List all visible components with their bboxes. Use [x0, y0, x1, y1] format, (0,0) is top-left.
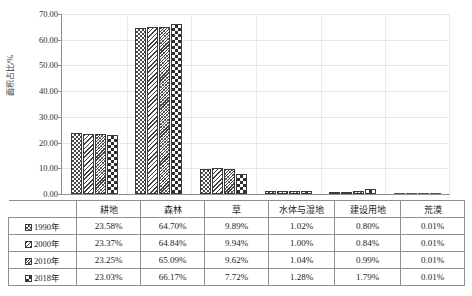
table-cell-value: 9.89%	[205, 218, 269, 235]
table-cell-value: 0.01%	[401, 235, 465, 252]
legend-row-label: 1990年	[9, 218, 77, 235]
legend-row-label: 2000年	[9, 235, 77, 252]
bar-group	[321, 14, 386, 194]
bar	[224, 169, 235, 194]
legend-swatch-icon	[25, 241, 32, 248]
y-tick-label: 70.00	[16, 10, 58, 18]
table-cell-value: 0.84%	[335, 235, 401, 252]
data-table-legend: 耕地森林草水体与湿地建设用地荒漠1990年23.58%64.70%9.89%1.…	[8, 200, 464, 286]
table-cell-value: 23.58%	[77, 218, 141, 235]
bar	[394, 193, 405, 194]
legend-series-name: 1990年	[34, 222, 60, 232]
top-cropped-text	[0, 0, 472, 7]
bar	[212, 168, 223, 194]
y-tick-mark	[58, 40, 62, 41]
y-tick-label: 40.00	[16, 87, 58, 95]
table-column-header: 草	[205, 201, 269, 218]
x-axis-line	[61, 194, 450, 195]
table-column-header: 森林	[141, 201, 205, 218]
table-cell-value: 1.04%	[269, 252, 335, 269]
bar	[365, 189, 376, 194]
table-cell-value: 64.70%	[141, 218, 205, 235]
table-cell-value: 9.62%	[205, 252, 269, 269]
table-cell-value: 0.01%	[401, 218, 465, 235]
y-tick-mark	[58, 143, 62, 144]
y-tick-label: 60.00	[16, 36, 58, 44]
bar	[430, 193, 441, 194]
bar-group	[256, 14, 321, 194]
table-cell-value: 1.00%	[269, 235, 335, 252]
legend-series-name: 2018年	[34, 273, 60, 283]
bar	[418, 193, 429, 194]
table-cell-value: 23.37%	[77, 235, 141, 252]
bar-group	[191, 14, 256, 194]
y-axis-tick-labels: 0.0010.0020.0030.0040.0050.0060.0070.00	[0, 8, 58, 200]
table-cell-value: 64.84%	[141, 235, 205, 252]
bar	[135, 28, 146, 194]
bar	[83, 134, 94, 194]
y-tick-mark	[58, 117, 62, 118]
legend-row-label: 2010年	[9, 252, 77, 269]
plot-area: 面积占比/% 0.0010.0020.0030.0040.0050.0060.0…	[0, 8, 472, 200]
table-cell-value: 0.80%	[335, 218, 401, 235]
y-tick-mark	[58, 168, 62, 169]
table-cell-value: 23.25%	[77, 252, 141, 269]
table-row: 2010年23.25%65.09%9.62%1.04%0.99%0.01%	[9, 252, 465, 269]
figure-caption	[0, 283, 472, 296]
legend-series-name: 2010年	[34, 256, 60, 266]
table-column-header: 水体与湿地	[269, 201, 335, 218]
bar	[341, 192, 352, 194]
y-tick-mark	[58, 14, 62, 15]
bar	[147, 27, 158, 194]
bar	[406, 193, 417, 194]
legend-swatch-icon	[25, 258, 32, 265]
table-cell-value: 0.01%	[401, 252, 465, 269]
bar	[171, 24, 182, 194]
table-cell-value: 1.02%	[269, 218, 335, 235]
table-row: 2000年23.37%64.84%9.94%1.00%0.84%0.01%	[9, 235, 465, 252]
bar	[71, 133, 82, 194]
y-tick-label: 30.00	[16, 113, 58, 121]
table-column-header: 耕地	[77, 201, 141, 218]
bar-group	[127, 14, 192, 194]
bar	[95, 134, 106, 194]
table-cell-value: 65.09%	[141, 252, 205, 269]
y-tick-label: 50.00	[16, 61, 58, 69]
y-tick-label: 0.00	[16, 190, 58, 198]
bar	[353, 191, 364, 194]
bars-layer	[62, 14, 450, 194]
table-column-header: 建设用地	[335, 201, 401, 218]
y-tick-mark	[58, 65, 62, 66]
bar	[107, 135, 118, 194]
legend-series-name: 2000年	[34, 239, 60, 249]
legend-swatch-icon	[25, 275, 32, 282]
bar	[301, 191, 312, 194]
series-value-table: 耕地森林草水体与湿地建设用地荒漠1990年23.58%64.70%9.89%1.…	[8, 200, 465, 286]
bar-group	[385, 14, 450, 194]
bar	[329, 192, 340, 194]
table-row: 1990年23.58%64.70%9.89%1.02%0.80%0.01%	[9, 218, 465, 235]
y-tick-label: 10.00	[16, 164, 58, 172]
table-cell-value: 9.94%	[205, 235, 269, 252]
bar-group	[62, 14, 127, 194]
table-corner-cell	[9, 201, 77, 218]
y-tick-label: 20.00	[16, 139, 58, 147]
bar	[277, 191, 288, 194]
table-column-header: 荒漠	[401, 201, 465, 218]
table-cell-value: 0.99%	[335, 252, 401, 269]
axes	[62, 14, 450, 194]
bar	[159, 27, 170, 194]
bar	[265, 191, 276, 194]
y-tick-mark	[58, 91, 62, 92]
figure-bar-chart-with-data-table: 面积占比/% 0.0010.0020.0030.0040.0050.0060.0…	[0, 0, 472, 296]
bar	[289, 191, 300, 194]
bar	[236, 174, 247, 194]
bar	[200, 169, 211, 194]
y-tick-mark	[58, 194, 62, 195]
legend-swatch-icon	[25, 224, 32, 231]
table-header-row: 耕地森林草水体与湿地建设用地荒漠	[9, 201, 465, 218]
